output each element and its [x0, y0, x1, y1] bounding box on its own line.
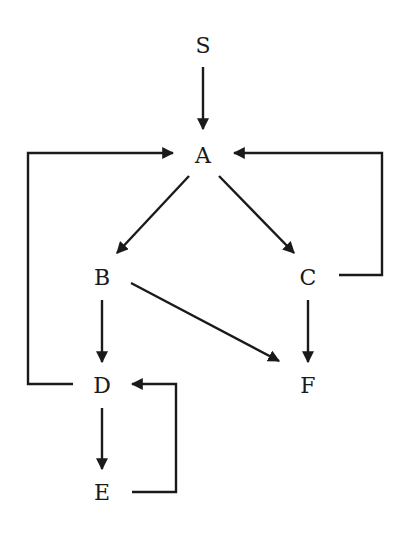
node-label-s: S — [195, 33, 210, 58]
node-c: C — [300, 265, 317, 290]
edge-b-f — [131, 283, 279, 361]
node-f: F — [300, 373, 315, 398]
node-label-b: B — [94, 265, 110, 290]
node-a: A — [194, 143, 212, 168]
node-label-e: E — [94, 480, 110, 505]
node-e: E — [94, 480, 110, 505]
node-label-a: A — [194, 143, 212, 168]
node-b: B — [94, 265, 110, 290]
node-s: S — [195, 33, 210, 58]
edge-a-b — [117, 176, 189, 253]
node-label-f: F — [300, 373, 315, 398]
flow-graph: S A B C D F E — [0, 0, 404, 534]
node-label-d: D — [93, 373, 111, 398]
edge-a-c — [219, 176, 294, 253]
edge-e-d — [132, 384, 176, 492]
node-label-c: C — [300, 265, 317, 290]
node-d: D — [93, 373, 111, 398]
